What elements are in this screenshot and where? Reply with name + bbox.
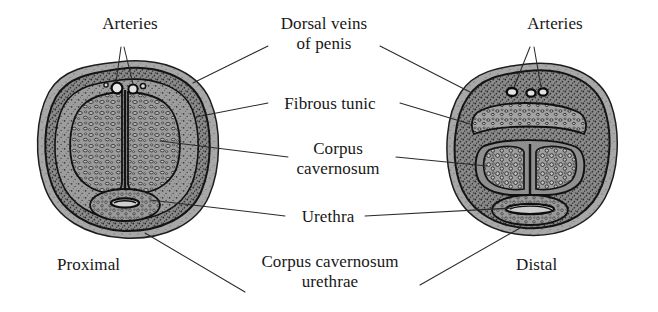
label-arteries-left: Arteries [60, 14, 200, 34]
distal-artery-left [507, 88, 517, 96]
label-corpus-cavernosum-urethrae: Corpus cavernosum urethrae [232, 252, 428, 291]
label-corpus-cavernosum-line2: cavernosum [296, 159, 379, 178]
proximal-dorsal-vein [140, 83, 145, 88]
label-fibrous-tunic: Fibrous tunic [264, 94, 396, 114]
distal-artery-right [538, 88, 547, 95]
distal-artery-mid [526, 89, 535, 96]
proximal-artery-left [112, 83, 123, 94]
distal-urethra-lumen [506, 204, 554, 214]
label-corpus-cavernosum: Corpus cavernosum [282, 139, 394, 178]
label-cc-urethrae-line1: Corpus cavernosum [261, 252, 398, 271]
label-dorsal-veins-of-penis: Dorsal veins of penis [258, 14, 390, 53]
label-arteries-right: Arteries [480, 14, 630, 34]
leader-dorsal-veins-left [193, 46, 268, 83]
leader-cc-urethrae-left [145, 233, 245, 292]
proximal-section-drawing [38, 61, 219, 238]
proximal-artery-right [128, 84, 137, 93]
label-dorsal-veins-line1: Dorsal veins [281, 14, 368, 33]
label-proximal: Proximal [57, 255, 120, 275]
leader-cc-urethrae-right [420, 228, 520, 285]
label-corpus-cavernosum-line1: Corpus [313, 139, 363, 158]
label-distal: Distal [516, 255, 557, 275]
distal-section-drawing [447, 63, 617, 235]
label-dorsal-veins-line2: of penis [296, 34, 351, 53]
label-cc-urethrae-line2: urethrae [302, 272, 358, 291]
label-urethra: Urethra [288, 207, 368, 227]
leader-dorsal-veins-right [380, 46, 470, 92]
